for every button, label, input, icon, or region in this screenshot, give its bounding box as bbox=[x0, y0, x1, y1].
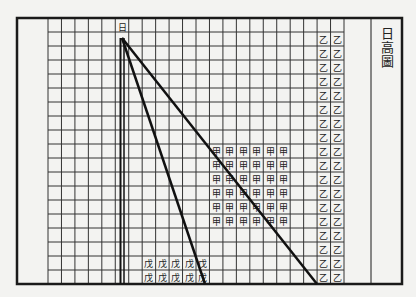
jia-marker: 甲 bbox=[239, 217, 248, 227]
yi-marker: 乙 bbox=[333, 189, 342, 199]
yi-marker: 乙 bbox=[319, 203, 328, 213]
yi-marker: 乙 bbox=[319, 63, 328, 73]
yi-marker: 乙 bbox=[333, 105, 342, 115]
title-char-1: 日 bbox=[381, 26, 394, 41]
wu-marker: 戊 bbox=[158, 258, 167, 269]
yi-marker: 乙 bbox=[333, 49, 342, 59]
yi-marker: 乙 bbox=[319, 105, 328, 115]
jia-marker: 甲 bbox=[225, 217, 234, 227]
jia-marker: 甲 bbox=[239, 203, 248, 213]
jia-marker: 甲 bbox=[225, 203, 234, 213]
yi-marker: 乙 bbox=[333, 147, 342, 157]
jia-marker: 甲 bbox=[279, 147, 288, 157]
jia-marker: 甲 bbox=[266, 203, 275, 213]
wu-marker: 戊 bbox=[158, 272, 167, 283]
jia-marker: 甲 bbox=[266, 161, 275, 171]
jia-marker: 甲 bbox=[252, 147, 261, 157]
wu-marker: 戊 bbox=[171, 272, 180, 283]
yi-marker: 乙 bbox=[319, 49, 328, 59]
jia-marker: 甲 bbox=[212, 217, 221, 227]
yi-marker: 乙 bbox=[333, 203, 342, 213]
yi-marker: 乙 bbox=[333, 175, 342, 185]
title-char-2: 高 bbox=[381, 40, 394, 55]
yi-marker: 乙 bbox=[319, 189, 328, 199]
jia-marker: 甲 bbox=[212, 175, 221, 185]
jia-marker: 甲 bbox=[279, 161, 288, 171]
yi-marker: 乙 bbox=[333, 63, 342, 73]
jia-marker: 甲 bbox=[266, 189, 275, 199]
jia-marker: 甲 bbox=[279, 217, 288, 227]
yi-marker: 乙 bbox=[319, 91, 328, 101]
yi-marker: 乙 bbox=[319, 147, 328, 157]
yi-marker: 乙 bbox=[319, 175, 328, 185]
yi-marker: 乙 bbox=[333, 231, 342, 241]
yi-marker: 乙 bbox=[333, 245, 342, 255]
jia-marker: 甲 bbox=[225, 147, 234, 157]
jia-marker: 甲 bbox=[266, 175, 275, 185]
wu-marker: 戊 bbox=[144, 272, 153, 283]
yi-marker: 乙 bbox=[333, 119, 342, 129]
yi-marker: 乙 bbox=[319, 161, 328, 171]
grid bbox=[48, 18, 344, 284]
wu-marker: 戊 bbox=[185, 272, 194, 283]
yi-marker: 乙 bbox=[333, 217, 342, 227]
wu-marker: 戊 bbox=[144, 258, 153, 269]
jia-marker: 甲 bbox=[252, 175, 261, 185]
jia-marker: 甲 bbox=[252, 161, 261, 171]
jia-marker: 甲 bbox=[212, 189, 221, 199]
yi-marker: 乙 bbox=[319, 119, 328, 129]
jia-marker: 甲 bbox=[266, 147, 275, 157]
yi-marker: 乙 bbox=[319, 35, 328, 45]
yi-marker: 乙 bbox=[319, 259, 328, 269]
yi-marker: 乙 bbox=[333, 273, 342, 283]
diagram-title: 日 高 圖 bbox=[381, 26, 394, 69]
jia-marker: 甲 bbox=[239, 175, 248, 185]
jia-marker: 甲 bbox=[239, 147, 248, 157]
sun-label: 日 bbox=[118, 23, 127, 33]
yi-marker: 乙 bbox=[333, 91, 342, 101]
yi-marker: 乙 bbox=[319, 245, 328, 255]
yi-marker: 乙 bbox=[333, 35, 342, 45]
yi-marker: 乙 bbox=[333, 77, 342, 87]
yi-marker: 乙 bbox=[319, 133, 328, 143]
yi-marker: 乙 bbox=[319, 273, 328, 283]
yi-marker: 乙 bbox=[333, 161, 342, 171]
jia-marker: 甲 bbox=[252, 217, 261, 227]
jia-marker: 甲 bbox=[279, 189, 288, 199]
yi-marker: 乙 bbox=[319, 217, 328, 227]
jia-marker: 甲 bbox=[225, 189, 234, 199]
yi-marker: 乙 bbox=[333, 133, 342, 143]
yi-marker: 乙 bbox=[333, 259, 342, 269]
wu-marker: 戊 bbox=[171, 258, 180, 269]
jia-marker: 甲 bbox=[252, 189, 261, 199]
yi-marker: 乙 bbox=[319, 231, 328, 241]
sun-height-diagram: 甲甲甲甲甲甲甲甲甲甲甲甲甲甲甲甲甲甲甲甲甲甲甲甲甲甲甲甲甲甲甲甲甲甲甲甲乙乙乙乙… bbox=[0, 0, 416, 297]
jia-marker: 甲 bbox=[279, 175, 288, 185]
jia-marker: 甲 bbox=[279, 203, 288, 213]
jia-marker: 甲 bbox=[212, 203, 221, 213]
yi-marker: 乙 bbox=[319, 77, 328, 87]
jia-marker: 甲 bbox=[239, 161, 248, 171]
title-char-3: 圖 bbox=[381, 54, 394, 69]
steep-sight-line bbox=[122, 38, 205, 284]
wu-marker: 戊 bbox=[185, 258, 194, 269]
